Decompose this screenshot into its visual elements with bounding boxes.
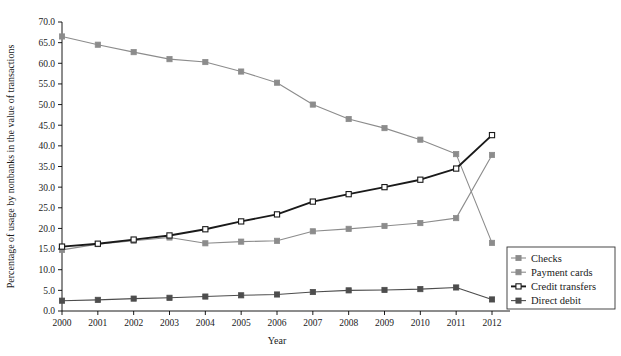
x-axis-tick-label: 2001 xyxy=(88,318,107,328)
legend-item-label: Direct debit xyxy=(531,295,581,306)
data-point-credit-transfers xyxy=(382,185,387,190)
data-point-credit-transfers xyxy=(95,241,100,246)
data-point-credit-transfers xyxy=(167,233,172,238)
y-axis-tick-label: 70.0 xyxy=(38,17,55,27)
data-point-direct-debit xyxy=(131,296,136,301)
x-axis-tick-label: 2012 xyxy=(483,318,502,328)
data-point-checks xyxy=(382,126,387,131)
data-point-checks xyxy=(203,59,208,64)
y-axis-tick-label: 60.0 xyxy=(38,59,55,69)
data-point-direct-debit xyxy=(203,294,208,299)
data-point-payment-cards xyxy=(274,238,279,243)
x-axis-tick-label: 2010 xyxy=(411,318,430,328)
y-axis-title: Percentage of usage by nonbanks in the v… xyxy=(5,45,16,289)
x-axis-tick-label: 2000 xyxy=(53,318,72,328)
y-axis-tick-label: 40.0 xyxy=(38,141,55,151)
x-axis-tick-label: 2004 xyxy=(196,318,215,328)
data-point-checks xyxy=(310,102,315,107)
x-axis-tick-label: 2011 xyxy=(447,318,466,328)
x-axis-tick-label: 2002 xyxy=(124,318,143,328)
legend-item-label: Credit transfers xyxy=(531,281,596,292)
data-point-direct-debit xyxy=(382,287,387,292)
x-axis-tick-label: 2008 xyxy=(339,318,358,328)
x-axis-tick-label: 2006 xyxy=(268,318,287,328)
series-line-credit-transfers xyxy=(62,135,492,246)
data-point-payment-cards xyxy=(454,216,459,221)
y-axis-tick-label: 25.0 xyxy=(38,203,55,213)
data-point-credit-transfers xyxy=(203,227,208,232)
data-point-credit-transfers xyxy=(274,212,279,217)
data-point-legend xyxy=(516,284,521,289)
y-axis-tick-label: 20.0 xyxy=(38,224,55,234)
y-axis-tick-label: 45.0 xyxy=(38,121,55,131)
line-chart: 0.05.010.015.020.025.030.035.040.045.050… xyxy=(0,0,621,356)
data-point-payment-cards xyxy=(418,220,423,225)
data-point-credit-transfers xyxy=(310,199,315,204)
data-point-checks xyxy=(454,152,459,157)
data-point-direct-debit xyxy=(418,287,423,292)
legend-item-label: Payment cards xyxy=(531,267,593,278)
series-credit-transfers xyxy=(59,133,494,250)
data-point-credit-transfers xyxy=(489,133,494,138)
y-axis-tick-label: 35.0 xyxy=(38,162,55,172)
series-direct-debit xyxy=(59,285,494,303)
data-point-checks xyxy=(418,137,423,142)
y-axis-tick-label: 15.0 xyxy=(38,244,55,254)
legend-item-label: Checks xyxy=(531,253,562,264)
y-axis-tick-label: 30.0 xyxy=(38,183,55,193)
data-point-direct-debit xyxy=(454,285,459,290)
data-point-payment-cards xyxy=(239,239,244,244)
chart-legend: ChecksPayment cardsCredit transfersDirec… xyxy=(507,247,615,309)
series-payment-cards xyxy=(59,152,494,252)
y-axis-tick-label: 0.0 xyxy=(43,306,55,316)
data-point-direct-debit xyxy=(346,288,351,293)
y-axis-tick-label: 5.0 xyxy=(43,286,55,296)
data-point-credit-transfers xyxy=(454,166,459,171)
data-point-direct-debit xyxy=(239,293,244,298)
data-point-checks xyxy=(95,42,100,47)
y-axis-tick-label: 55.0 xyxy=(38,79,55,89)
data-point-checks xyxy=(489,240,494,245)
x-axis-tick-label: 2005 xyxy=(232,318,251,328)
data-point-direct-debit xyxy=(95,297,100,302)
data-point-credit-transfers xyxy=(418,177,423,182)
data-point-legend xyxy=(516,255,521,260)
data-point-checks xyxy=(59,34,64,39)
data-point-direct-debit xyxy=(489,297,494,302)
data-point-direct-debit xyxy=(167,295,172,300)
series-line-payment-cards xyxy=(62,155,492,250)
x-axis-tick-label: 2009 xyxy=(375,318,394,328)
data-point-legend xyxy=(516,270,521,275)
x-axis-title: Year xyxy=(268,335,287,346)
data-point-credit-transfers xyxy=(346,192,351,197)
data-point-checks xyxy=(131,50,136,55)
data-point-payment-cards xyxy=(382,223,387,228)
data-point-checks xyxy=(346,116,351,121)
data-point-payment-cards xyxy=(489,152,494,157)
data-point-direct-debit xyxy=(274,292,279,297)
data-point-checks xyxy=(274,80,279,85)
chart-container: 0.05.010.015.020.025.030.035.040.045.050… xyxy=(0,0,621,356)
data-point-payment-cards xyxy=(310,229,315,234)
y-axis-tick-label: 65.0 xyxy=(38,38,55,48)
data-point-checks xyxy=(167,57,172,62)
data-point-payment-cards xyxy=(346,226,351,231)
data-point-payment-cards xyxy=(203,241,208,246)
x-axis-tick-label: 2007 xyxy=(303,318,322,328)
data-point-checks xyxy=(239,69,244,74)
y-axis-tick-label: 50.0 xyxy=(38,100,55,110)
data-point-direct-debit xyxy=(310,289,315,294)
x-axis-tick-label: 2003 xyxy=(160,318,179,328)
data-point-credit-transfers xyxy=(59,244,64,249)
data-point-direct-debit xyxy=(59,298,64,303)
y-axis-tick-label: 10.0 xyxy=(38,265,55,275)
data-point-credit-transfers xyxy=(239,219,244,224)
data-point-legend xyxy=(516,298,521,303)
data-point-credit-transfers xyxy=(131,237,136,242)
